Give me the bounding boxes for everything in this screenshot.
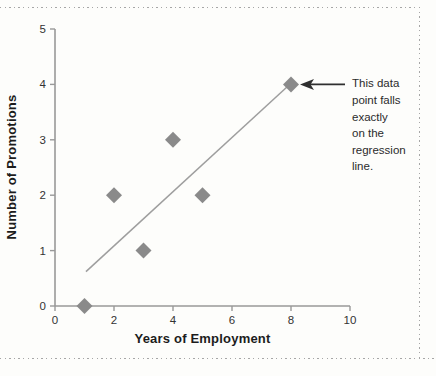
y-tick-label: 2 [40,189,46,201]
y-tick-label: 1 [40,245,46,257]
x-axis-title: Years of Employment [55,331,350,346]
x-tick-label: 10 [344,314,357,326]
data-point-diamond [283,76,299,92]
scatter-chart: 0246810012345 [0,0,436,376]
data-point-diamond [165,132,181,148]
x-tick-label: 0 [52,314,58,326]
y-tick-label: 0 [40,300,46,312]
x-tick-label: 4 [170,314,177,326]
data-point-diamond [106,187,122,203]
y-axis-title: Number of Promotions [4,67,24,267]
y-tick-label: 5 [40,23,46,35]
regression-line [86,86,288,272]
scanned-figure-page: 0246810012345 Number of Promotions Years… [0,0,436,376]
data-point-diamond [77,298,93,314]
x-tick-label: 2 [111,314,117,326]
scatter-plot-figure: 0246810012345 Number of Promotions Years… [0,0,436,376]
data-point-diamond [136,243,152,259]
x-tick-label: 6 [229,314,235,326]
y-tick-label: 3 [40,134,46,146]
data-point-diamond [195,187,211,203]
y-tick-label: 4 [40,78,47,90]
x-tick-label: 8 [288,314,294,326]
annotation-text: This data point falls exactly on the reg… [352,75,406,175]
